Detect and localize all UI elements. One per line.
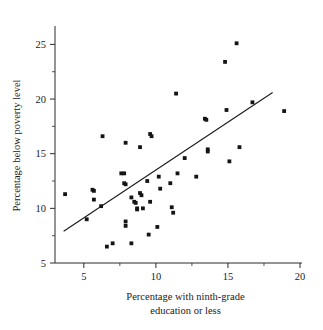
data-point — [138, 145, 142, 149]
data-point — [135, 208, 139, 212]
data-point — [122, 171, 126, 175]
y-tick-label-10: 10 — [36, 203, 47, 214]
data-point — [129, 196, 133, 200]
x-tick-label-15: 15 — [223, 271, 234, 282]
data-point — [158, 187, 162, 191]
data-point — [148, 200, 152, 204]
x-tick-label-5: 5 — [81, 271, 86, 282]
data-point — [101, 134, 105, 138]
data-point — [92, 189, 96, 193]
data-point — [85, 217, 89, 221]
data-point — [150, 134, 154, 138]
y-axis-title: Percentage below poverty level — [11, 79, 22, 211]
data-point — [124, 141, 128, 145]
x-tick-label-20: 20 — [295, 271, 306, 282]
data-point — [105, 245, 109, 249]
data-point — [63, 192, 67, 196]
data-point — [124, 224, 128, 228]
data-point — [235, 41, 239, 45]
data-point — [140, 193, 144, 197]
data-point — [183, 156, 187, 160]
data-point — [129, 241, 133, 245]
data-point — [206, 150, 210, 154]
y-tick-label-25: 25 — [36, 39, 47, 50]
data-point — [111, 241, 115, 245]
data-point — [147, 233, 151, 237]
data-point — [145, 179, 149, 183]
data-point — [171, 211, 175, 215]
data-point — [157, 175, 161, 179]
x-axis-title-line2: education or less — [150, 305, 221, 316]
regression-line — [64, 92, 273, 231]
data-point — [223, 60, 227, 64]
data-point — [155, 225, 159, 229]
plot-canvas: 5101520255101520Percentage with ninth-gr… — [0, 0, 323, 330]
data-point — [227, 159, 231, 163]
data-point — [194, 175, 198, 179]
y-tick-label-20: 20 — [36, 94, 47, 105]
y-tick-label-5: 5 — [41, 258, 46, 269]
data-point — [168, 181, 172, 185]
scatter-plot-figure: 5101520255101520Percentage with ninth-gr… — [0, 0, 323, 330]
data-point — [204, 118, 208, 122]
data-point — [251, 100, 255, 104]
data-point — [92, 198, 96, 202]
data-point — [124, 182, 128, 186]
data-point — [174, 92, 178, 96]
x-tick-label-10: 10 — [151, 271, 162, 282]
data-point — [170, 205, 174, 209]
data-point — [238, 145, 242, 149]
data-point — [141, 206, 145, 210]
y-tick-label-15: 15 — [36, 148, 47, 159]
x-axis-title-line1: Percentage with ninth-grade — [126, 291, 245, 302]
data-point — [124, 220, 128, 224]
data-point — [225, 108, 229, 112]
data-point — [282, 109, 286, 113]
data-point — [176, 171, 180, 175]
data-point — [99, 204, 103, 208]
data-point — [134, 201, 138, 205]
